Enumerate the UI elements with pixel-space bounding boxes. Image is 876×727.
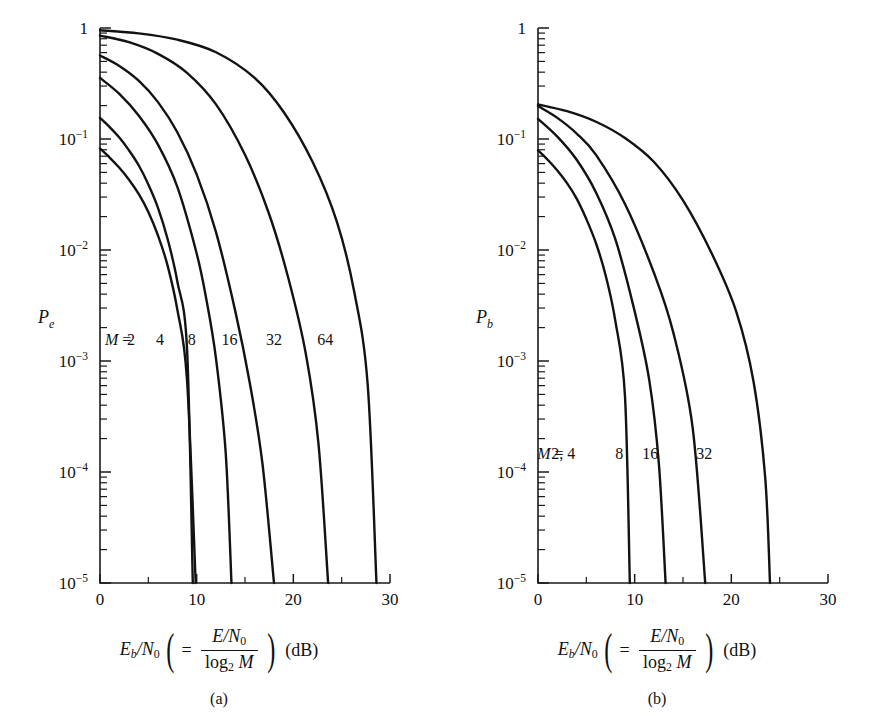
y-tick-label: 10−1 bbox=[497, 128, 526, 149]
caption-b-den-m: M bbox=[677, 652, 692, 672]
caption-a-den-base: 2 bbox=[228, 660, 234, 674]
caption-b-n-sub: 0 bbox=[592, 647, 598, 661]
curve-label-32: 32 bbox=[696, 445, 712, 462]
y-tick-label: 10−4 bbox=[59, 461, 88, 482]
plot-a: 0102030110−110−210−310−410−5PeM =2481632… bbox=[0, 0, 438, 620]
caption-a-n: /N bbox=[137, 639, 154, 659]
caption-b-paren-close: ) bbox=[705, 634, 713, 666]
caption-b-num-sub: 0 bbox=[678, 634, 684, 648]
x-tick-label: 30 bbox=[820, 590, 837, 609]
data-curve-m-8 bbox=[538, 119, 666, 583]
data-curve-m-32 bbox=[100, 36, 328, 583]
y-axis-label: Pb bbox=[475, 307, 493, 331]
caption-a-numerator: E/N0 bbox=[201, 626, 257, 651]
y-tick-label: 10−2 bbox=[59, 239, 88, 260]
y-tick-label: 10−4 bbox=[497, 461, 526, 482]
caption-b-units: (dB) bbox=[723, 641, 756, 659]
x-axis-caption-a: Eb/N0 ( = E/N0 log2 M ) (dB) bbox=[0, 626, 438, 674]
curve-label-4: 4 bbox=[156, 331, 164, 348]
data-curve-m-4 bbox=[100, 149, 196, 583]
curve-label-16: 16 bbox=[642, 445, 658, 462]
x-tick-label: 0 bbox=[534, 590, 543, 609]
caption-b-eb: E bbox=[558, 639, 569, 659]
curve-label-8: 8 bbox=[615, 445, 623, 462]
caption-b-equals: = bbox=[619, 641, 629, 659]
data-curve-m-16 bbox=[100, 56, 274, 583]
data-curve-m-2 bbox=[100, 118, 193, 583]
caption-b-fraction: E/N0 log2 M bbox=[639, 626, 695, 674]
y-tick-label: 10−1 bbox=[59, 128, 88, 149]
y-axis-label: Pe bbox=[37, 307, 55, 331]
caption-a-num-sub: 0 bbox=[240, 634, 246, 648]
y-tick-label: 10−5 bbox=[59, 572, 88, 593]
panel-a: 0102030110−110−210−310−410−5PeM =2481632… bbox=[0, 0, 438, 727]
caption-a-den-m: M bbox=[239, 652, 254, 672]
caption-a-denominator: log2 M bbox=[201, 651, 257, 675]
caption-a-equals: = bbox=[181, 641, 191, 659]
caption-b-den-base: 2 bbox=[666, 660, 672, 674]
data-curve-m-2-4 bbox=[538, 150, 630, 583]
axis-lines bbox=[538, 28, 828, 583]
caption-b-den-log: log bbox=[643, 652, 666, 672]
caption-b-n: /N bbox=[575, 639, 592, 659]
caption-a-den-log: log bbox=[205, 652, 228, 672]
x-tick-label: 20 bbox=[723, 590, 740, 609]
caption-a-units: (dB) bbox=[285, 641, 318, 659]
y-tick-label: 10−3 bbox=[497, 350, 526, 371]
y-tick-label: 10−2 bbox=[497, 239, 526, 260]
caption-a-num-n: /N bbox=[223, 626, 240, 646]
caption-b-num-n: /N bbox=[661, 626, 678, 646]
x-tick-label: 0 bbox=[96, 590, 105, 609]
caption-b-paren-open: ( bbox=[605, 634, 613, 666]
caption-a-num-e: E bbox=[212, 626, 223, 646]
caption-b-num-e: E bbox=[650, 626, 661, 646]
caption-a-fraction: E/N0 log2 M bbox=[201, 626, 257, 674]
data-curve-m-64 bbox=[100, 30, 376, 583]
curve-label-32: 32 bbox=[266, 331, 282, 348]
caption-a-n-sub: 0 bbox=[154, 647, 160, 661]
y-tick-label: 10−3 bbox=[59, 350, 88, 371]
curve-label-8: 8 bbox=[188, 331, 196, 348]
y-tick-label: 10−5 bbox=[497, 572, 526, 593]
x-tick-label: 30 bbox=[382, 590, 399, 609]
curve-label-64: 64 bbox=[317, 331, 333, 348]
caption-a-paren-open: ( bbox=[167, 634, 175, 666]
caption-b-denominator: log2 M bbox=[639, 651, 695, 675]
curve-label-2: 2 bbox=[127, 331, 135, 348]
caption-a-eb: E bbox=[120, 639, 131, 659]
x-tick-label: 10 bbox=[626, 590, 643, 609]
axis-lines bbox=[100, 28, 390, 583]
curve-label-2-4: 2, 4 bbox=[551, 445, 575, 462]
x-tick-label: 20 bbox=[285, 590, 302, 609]
caption-b-numerator: E/N0 bbox=[639, 626, 695, 651]
caption-a-paren-close: ) bbox=[267, 634, 275, 666]
panel-letter-b: (b) bbox=[438, 690, 876, 708]
panel-b: 0102030110−110−210−310−410−5PbM =2, 4816… bbox=[438, 0, 876, 727]
x-tick-label: 10 bbox=[188, 590, 205, 609]
panel-letter-a: (a) bbox=[0, 690, 438, 708]
y-tick-label: 1 bbox=[80, 19, 89, 38]
curve-label-16: 16 bbox=[222, 331, 238, 348]
figure-root: 0102030110−110−210−310−410−5PeM =2481632… bbox=[0, 0, 876, 727]
x-axis-caption-b: Eb/N0 ( = E/N0 log2 M ) (dB) bbox=[438, 626, 876, 674]
data-curve-m-32 bbox=[538, 104, 770, 583]
y-tick-label: 1 bbox=[518, 19, 527, 38]
plot-b: 0102030110−110−210−310−410−5PbM =2, 4816… bbox=[438, 0, 876, 620]
